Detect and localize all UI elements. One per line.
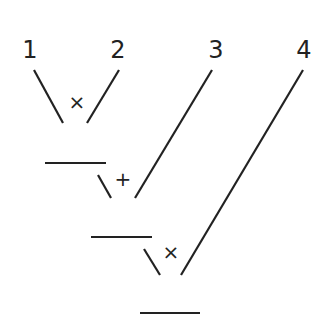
leaf-label-2: 2 (110, 36, 125, 64)
edge-1-left (34, 70, 63, 123)
operator-multiply-2: × (163, 240, 180, 264)
edge-result2-left (144, 249, 160, 275)
leaf-label-4: 4 (296, 36, 311, 64)
expression-tree-diagram: 1 2 3 4 × + × (0, 0, 333, 315)
edge-result1-left (98, 175, 111, 198)
operator-plus: + (115, 167, 132, 191)
edge-3-right (135, 70, 212, 198)
edge-4-right (181, 70, 303, 275)
leaf-label-3: 3 (208, 36, 223, 64)
leaf-label-1: 1 (22, 36, 37, 64)
edge-2-right (87, 70, 119, 123)
operator-multiply-1: × (69, 90, 86, 114)
